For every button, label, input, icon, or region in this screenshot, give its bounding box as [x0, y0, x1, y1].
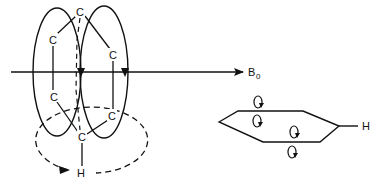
field-label-b: B	[248, 66, 255, 78]
field-label: B 0	[248, 66, 261, 81]
nmr-ring-current-diagram: B 0 C C C C C C	[0, 0, 379, 185]
atom-c-top: C	[76, 6, 84, 18]
circulation-icon	[290, 126, 300, 138]
atom-c-lower-left: C	[50, 91, 58, 103]
circulation-icon	[253, 115, 263, 127]
substituent-h: H	[362, 120, 370, 132]
atom-c-upper-right: C	[109, 49, 117, 61]
atom-c-bottom: C	[78, 131, 86, 143]
field-label-subscript: 0	[256, 72, 261, 81]
circulation-icon	[288, 146, 298, 158]
atoms: C C C C C C H	[48, 5, 118, 179]
circulation-icon	[254, 96, 264, 108]
atom-c-lower-right: C	[108, 110, 116, 122]
circulation-markers	[253, 96, 300, 158]
induced-field-arrow-icon	[59, 166, 70, 174]
atom-h: H	[77, 167, 85, 179]
atom-c-upper-left: C	[49, 34, 57, 46]
induced-field-loop	[36, 107, 148, 174]
